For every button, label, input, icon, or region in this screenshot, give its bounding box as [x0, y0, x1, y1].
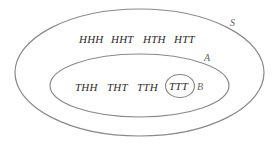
outcome-hth: HTH — [143, 34, 166, 45]
outcome-hht: HHT — [111, 34, 134, 45]
outcome-ttt: TTT — [169, 81, 188, 92]
outcome-htt: HTT — [174, 34, 195, 45]
outcome-thh: THH — [75, 82, 98, 93]
set-a-label: A — [204, 53, 210, 63]
set-b-label: B — [197, 82, 203, 92]
venn-diagram-canvas — [0, 0, 278, 146]
outcome-tht: THT — [107, 82, 128, 93]
outcome-tth: TTH — [137, 82, 158, 93]
set-s-label: S — [230, 18, 235, 28]
outcome-hhh: HHH — [79, 34, 103, 45]
